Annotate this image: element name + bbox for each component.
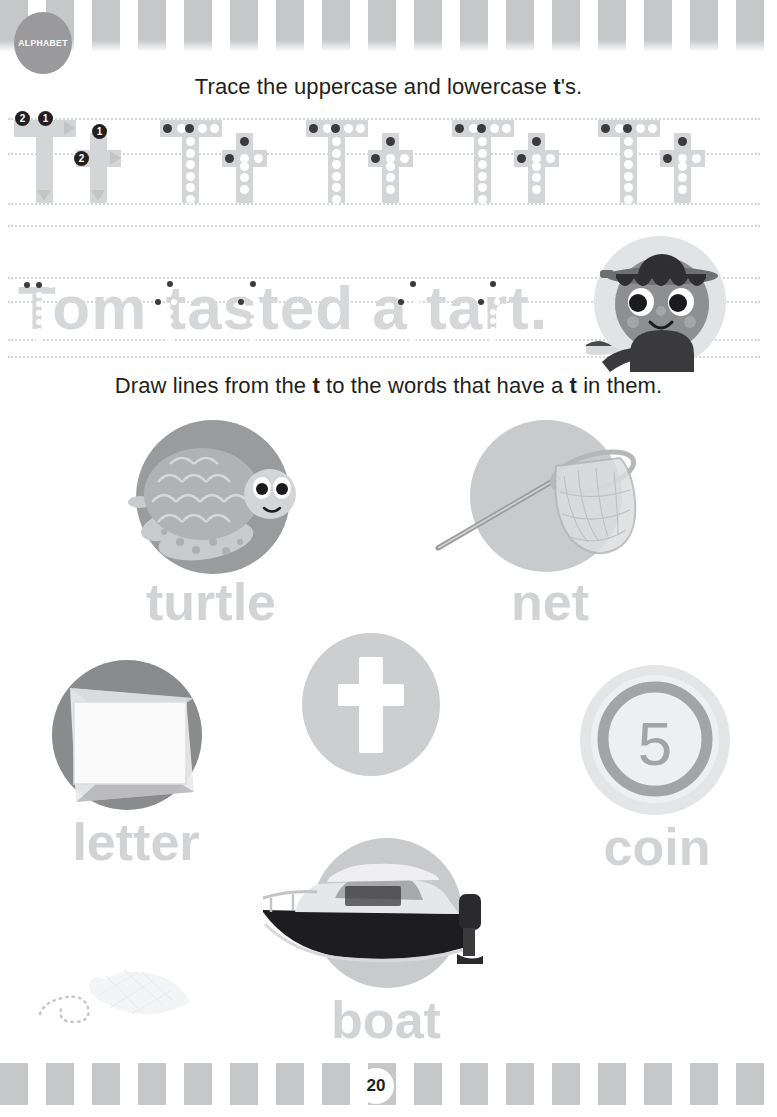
sentence-start-dot (24, 282, 30, 288)
lowercase-t-dot (532, 185, 541, 194)
worksheet-page: ALPHABET Trace the uppercase and lowerca… (0, 0, 777, 1117)
uppercase-t-dot (478, 137, 487, 146)
hub-letter-t[interactable] (302, 633, 440, 776)
sentence-start-dot (36, 282, 42, 288)
page-number: 20 (358, 1068, 394, 1104)
sentence-trace-dot (167, 318, 173, 324)
sentence-trace-dot (48, 282, 54, 288)
sentence-trace-dot (36, 328, 42, 334)
sentence-trace-dot (171, 299, 177, 305)
lowercase-t-start-dot-crossbar (663, 154, 672, 163)
lowercase-t-dot (240, 162, 249, 171)
uppercase-t-dot (186, 137, 195, 146)
sentence-trace-dot (414, 299, 420, 305)
trace-letter-lowercase-t[interactable] (514, 0, 584, 240)
uppercase-t-dot (624, 183, 633, 192)
sentence-trace-dot (410, 336, 416, 342)
uppercase-t-stem-arrow (37, 190, 51, 201)
character-tom (586, 232, 732, 372)
word-tile-turtle[interactable]: turtle (118, 420, 304, 635)
sentence-start-dot (167, 281, 173, 287)
trace-letter-lowercase-t[interactable] (660, 0, 730, 240)
sentence-start-dot (398, 299, 404, 305)
instruction-draw-pre: Draw lines from the (115, 373, 313, 398)
bird-doodle-icon (28, 952, 198, 1024)
word-tile-boat-label: boat (256, 990, 516, 1050)
sentence-trace-dot (36, 319, 42, 325)
sentence-start-dot (155, 299, 161, 305)
lowercase-t-start-dot-crossbar (225, 154, 234, 163)
uppercase-t-dot (478, 172, 487, 181)
word-tile-net[interactable]: net (450, 420, 650, 635)
uppercase-t-dot (332, 149, 341, 158)
word-tile-letter[interactable]: letter (36, 660, 236, 875)
uppercase-t-dot (332, 137, 341, 146)
bird-doodle-watermark (28, 952, 198, 1024)
lowercase-t-dot (254, 154, 263, 163)
uppercase-t-crossbar-arrow (64, 121, 75, 135)
lowercase-t-dot (678, 162, 687, 171)
lowercase-t-dot (240, 173, 249, 182)
sentence-trace-dot (36, 292, 42, 298)
uppercase-t-dot (624, 149, 633, 158)
lowercase-t-dot (386, 185, 395, 194)
sentence-trace-dot (410, 318, 416, 324)
sentence-trace-dot (36, 337, 42, 343)
lowercase-t-start-dot-crossbar (371, 154, 380, 163)
lowercase-t-stem-arrow (91, 190, 105, 201)
stroke-number-1: 1 (38, 111, 53, 126)
sentence-trace-dot (250, 336, 256, 342)
sentence-trace-dot (410, 309, 416, 315)
instruction-draw-post: in them. (577, 373, 662, 398)
word-tile-net-label: net (450, 572, 650, 632)
uppercase-t-dot (186, 183, 195, 192)
lowercase-t-dot (678, 173, 687, 182)
word-tile-coin[interactable]: 5 coin (562, 665, 752, 880)
instruction-draw-letter-2: t (569, 373, 576, 398)
lowercase-t-start-dot-stem (240, 137, 249, 146)
sentence-trace-dot (490, 309, 496, 315)
stroke-number-2: 2 (15, 111, 30, 126)
uppercase-t-dot (186, 195, 195, 204)
word-tile-coin-label: coin (562, 817, 752, 877)
lowercase-t-dot (692, 154, 701, 163)
sentence-trace-dot (254, 299, 260, 305)
instruction-draw-mid: to the words that have a (320, 373, 570, 398)
word-tile-letter-label: letter (36, 812, 236, 872)
sentence-trace-dot (250, 327, 256, 333)
sentence-trace-dot (490, 327, 496, 333)
lowercase-t-dot (386, 162, 395, 171)
uppercase-t-start-dot-crossbar (601, 124, 610, 133)
uppercase-t-start-dot-crossbar (309, 124, 318, 133)
uppercase-t-dot (332, 172, 341, 181)
sentence-trace-dot (167, 327, 173, 333)
sentence-trace-dot (250, 309, 256, 315)
subject-badge-label: ALPHABET (18, 38, 67, 48)
uppercase-t-dot (332, 160, 341, 169)
lowercase-t-start-dot-stem (386, 137, 395, 146)
page-number-label: 20 (367, 1076, 386, 1096)
trace-letter-lowercase-t[interactable] (368, 0, 438, 240)
trace-letter-lowercase-t[interactable] (222, 0, 292, 240)
uppercase-t-dot (186, 172, 195, 181)
uppercase-t-dot (624, 160, 633, 169)
lowercase-t-dot (546, 154, 555, 163)
hub-t-crossbar (338, 684, 404, 706)
lowercase-t-dot (532, 162, 541, 171)
uppercase-t-dot (478, 160, 487, 169)
sentence-trace[interactable]: Tom tasted a tart. (18, 272, 548, 343)
uppercase-t-dot (478, 183, 487, 192)
subject-badge: ALPHABET (14, 12, 72, 74)
sentence-trace-dot (167, 309, 173, 315)
uppercase-t-dot (332, 183, 341, 192)
uppercase-t-start-dot-stem (477, 124, 486, 133)
word-tile-boat[interactable]: boat (256, 838, 516, 1053)
uppercase-t-dot (502, 124, 511, 133)
turtle-illustration (118, 420, 304, 580)
lowercase-t-dot (400, 154, 409, 163)
sentence-start-dot (478, 299, 484, 305)
word-tile-turtle-label: turtle (118, 572, 304, 632)
uppercase-t-start-dot-crossbar (163, 124, 172, 133)
trace-letter-lowercase-t[interactable]: 12 (76, 0, 146, 240)
net-photo (430, 420, 640, 580)
